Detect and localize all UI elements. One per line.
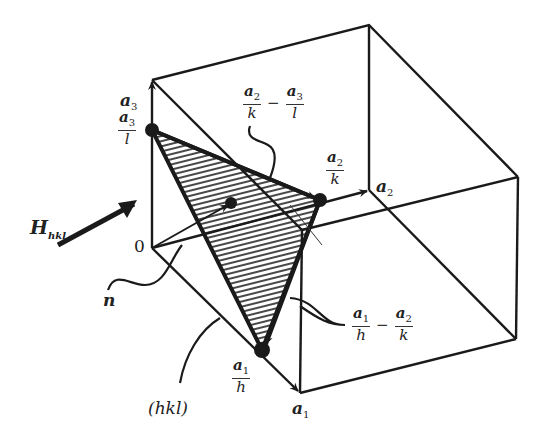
label-a3-over-l: a3 l [118, 110, 136, 147]
diagram-graphics [0, 0, 550, 434]
label-origin: 0 [134, 238, 145, 255]
label-edge-a1h-minus-a2k: a1h − a2k [352, 306, 413, 343]
label-n: n [103, 292, 115, 309]
label-edge-a2k-minus-a3l: a2k − a3l [243, 84, 304, 121]
intercept-a1 [254, 342, 270, 358]
label-a2-over-k: a2 k [326, 150, 344, 187]
label-a2: a2 [376, 178, 393, 198]
label-a1-over-h: a1 h [232, 358, 250, 395]
label-hkl-plane: (hkl) [148, 400, 188, 417]
label-a1: a1 [292, 400, 309, 420]
label-h-hkl: Hhkl [30, 218, 66, 241]
intercept-a3 [145, 123, 159, 137]
lattice-plane-diagram: a3 a2 a1 0 Hhkl n (hkl) a3 l a2 k a1 h a… [0, 0, 550, 434]
intercept-a2 [313, 193, 327, 207]
